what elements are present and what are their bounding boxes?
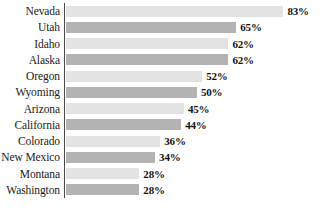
bar-track: 83% — [66, 3, 323, 19]
bar-category-label: Utah — [0, 21, 64, 33]
bar-track: 44% — [66, 117, 323, 133]
bar-category-label: Nevada — [0, 5, 64, 17]
bar — [66, 119, 181, 130]
bar-row: Oregon52% — [0, 68, 323, 84]
bar — [66, 22, 236, 33]
bar — [66, 38, 228, 49]
bar-row: Idaho62% — [0, 36, 323, 52]
bar-category-label: Colorado — [0, 135, 64, 147]
bar-track: 52% — [66, 68, 323, 84]
bar-track: 36% — [66, 133, 323, 149]
bar-value-label: 45% — [188, 103, 209, 115]
bar — [66, 136, 160, 147]
bar-category-label: Alaska — [0, 54, 64, 66]
bar-track: 28% — [66, 166, 323, 182]
bar-value-label: 34% — [159, 151, 180, 163]
bar-category-label: California — [0, 119, 64, 131]
bar-value-label: 50% — [201, 86, 222, 98]
bar-track: 62% — [66, 52, 323, 68]
bar-row: California44% — [0, 117, 323, 133]
bar-category-label: Idaho — [0, 38, 64, 50]
bar-value-label: 62% — [232, 54, 253, 66]
bar-track: 34% — [66, 149, 323, 165]
bar-track: 28% — [66, 182, 323, 198]
bar-category-label: Arizona — [0, 103, 64, 115]
bar-row: Montana28% — [0, 166, 323, 182]
bar-row: Arizona45% — [0, 101, 323, 117]
bar-rows-container: Nevada83%Utah65%Idaho62%Alaska62%Oregon5… — [0, 3, 323, 198]
bar-value-label: 62% — [232, 38, 253, 50]
bar-value-label: 65% — [240, 21, 261, 33]
bar-track: 62% — [66, 36, 323, 52]
bar-row: New Mexico34% — [0, 149, 323, 165]
bar — [66, 103, 184, 114]
bar-track: 45% — [66, 101, 323, 117]
bar — [66, 152, 155, 163]
bar-value-label: 44% — [185, 119, 206, 131]
bar-category-label: Oregon — [0, 70, 64, 82]
bar-value-label: 83% — [287, 5, 308, 17]
bar-value-label: 28% — [143, 168, 164, 180]
bar — [66, 168, 139, 179]
bar-value-label: 52% — [206, 70, 227, 82]
bar — [66, 184, 139, 195]
category-axis-line — [64, 3, 65, 198]
bar-row: Nevada83% — [0, 3, 323, 19]
bar — [66, 54, 228, 65]
bar-value-label: 28% — [143, 184, 164, 196]
bar-track: 50% — [66, 84, 323, 100]
bar-row: Wyoming50% — [0, 84, 323, 100]
bar — [66, 87, 197, 98]
bar-row: Washington28% — [0, 182, 323, 198]
bar-chart: Nevada83%Utah65%Idaho62%Alaska62%Oregon5… — [0, 0, 323, 211]
bar-row: Alaska62% — [0, 52, 323, 68]
bar-row: Colorado36% — [0, 133, 323, 149]
bar — [66, 71, 202, 82]
bar — [66, 6, 283, 17]
bar-category-label: Wyoming — [0, 86, 64, 98]
bar-category-label: Montana — [0, 168, 64, 180]
bar-track: 65% — [66, 19, 323, 35]
bar-category-label: New Mexico — [0, 151, 64, 163]
bar-category-label: Washington — [0, 184, 64, 196]
bar-row: Utah65% — [0, 19, 323, 35]
bar-value-label: 36% — [164, 135, 185, 147]
